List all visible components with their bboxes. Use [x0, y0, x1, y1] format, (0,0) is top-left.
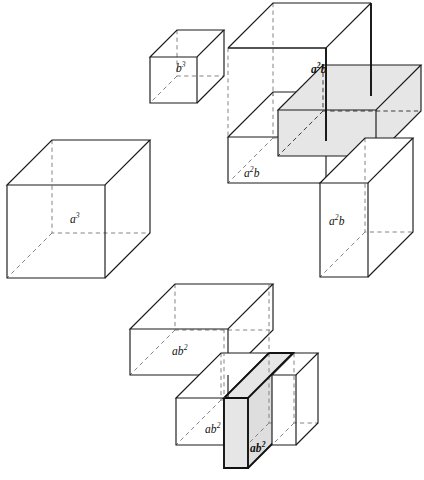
geometry-canvas: [0, 0, 424, 480]
solid-group-a-squared-b: [228, 3, 421, 277]
label-a-squared-b-front: a2b: [329, 216, 345, 228]
label-b-cubed: b3: [176, 63, 186, 75]
solid-b-cubed: [150, 30, 224, 103]
label-a-b-squared-right: ab2: [250, 443, 266, 455]
label-a-cubed: a3: [70, 214, 80, 226]
label-a-b-squared-front: ab2: [205, 424, 221, 436]
label-a-squared-b-left: a2b: [244, 168, 260, 180]
solid-a-cubed: [7, 140, 150, 278]
binomial-cube-figure: a3 b3 a2b a2b a2b ab2 ab2 ab2: [0, 0, 424, 480]
label-a-squared-b-top: a2b: [311, 64, 327, 76]
label-a-b-squared-top: ab2: [172, 346, 188, 358]
solid-group-a-b-squared: [130, 284, 318, 468]
